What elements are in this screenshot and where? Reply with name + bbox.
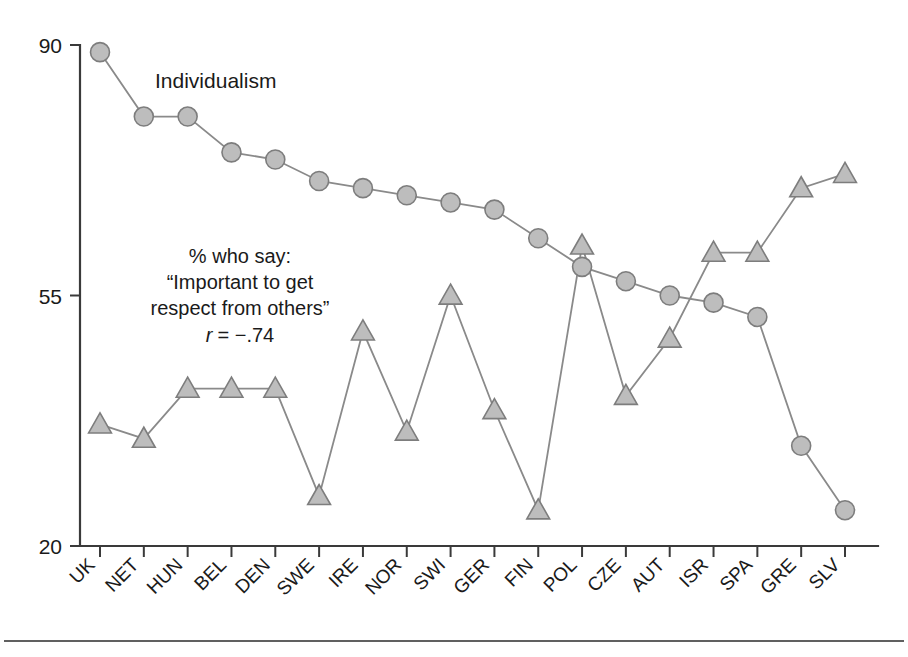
- scatter-line-chart: 205590 UKNETHUNBELDENSWEIRENORSWIGERFINP…: [0, 0, 908, 657]
- data-point-circle: [704, 293, 723, 312]
- data-point-circle: [222, 143, 241, 162]
- figure-container: 205590 UKNETHUNBELDENSWEIRENORSWIGERFINP…: [0, 0, 908, 657]
- data-point-circle: [748, 307, 767, 326]
- data-point-circle: [616, 272, 635, 291]
- y-tick-label: 55: [39, 285, 62, 308]
- chart-background: [0, 0, 908, 657]
- data-point-circle: [310, 171, 329, 190]
- data-point-circle: [792, 436, 811, 455]
- data-point-circle: [441, 193, 460, 212]
- data-point-circle: [178, 107, 197, 126]
- series-individualism-label: Individualism: [155, 69, 276, 92]
- data-point-circle: [836, 501, 855, 520]
- correlation-value: = −.74: [217, 324, 274, 346]
- data-point-circle: [573, 257, 592, 276]
- data-point-circle: [397, 186, 416, 205]
- y-tick-label: 20: [39, 535, 62, 558]
- data-point-circle: [266, 150, 285, 169]
- annotation-line-1: % who say:: [189, 245, 291, 267]
- annotation-line-2: “Important to get: [167, 271, 314, 293]
- data-point-circle: [529, 229, 548, 248]
- annotation-line-3: respect from others”: [151, 297, 330, 319]
- data-point-circle: [134, 107, 153, 126]
- data-point-circle: [91, 43, 110, 62]
- data-point-circle: [353, 179, 372, 198]
- y-tick-label: 90: [39, 34, 62, 57]
- data-point-circle: [485, 200, 504, 219]
- data-point-circle: [660, 286, 679, 305]
